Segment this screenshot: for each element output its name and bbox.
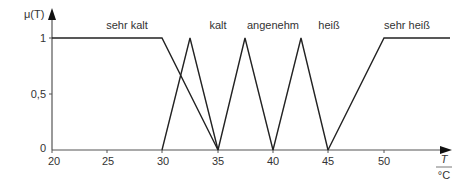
x-axis-label-denominator: °C <box>438 169 450 181</box>
label-kalt: kalt <box>209 19 226 31</box>
x-tick-label-45: 45 <box>322 155 334 167</box>
membership-function-chart: 1 0,5 0 μ(T) 20 25 30 35 40 45 50 T °C s… <box>0 0 474 187</box>
series-lines <box>52 38 450 150</box>
y-axis-arrow-icon <box>48 8 56 20</box>
y-tick-label-05: 0,5 <box>31 88 46 100</box>
label-sehr-heiss: sehr heiß <box>384 19 430 31</box>
y-tick-label-0: 0 <box>40 142 46 154</box>
x-tick-label-50: 50 <box>378 155 390 167</box>
x-tick-label-25: 25 <box>102 155 114 167</box>
series-sehr-heiss <box>328 38 450 150</box>
x-tick-label-35: 35 <box>212 155 224 167</box>
x-tick-label-30: 30 <box>157 155 169 167</box>
x-axis-label-numerator: T <box>441 153 449 165</box>
label-sehr-kalt: sehr kalt <box>106 19 148 31</box>
x-tick-label-20: 20 <box>48 155 60 167</box>
series-angenehm <box>218 38 273 150</box>
y-axis-label: μ(T) <box>24 8 44 20</box>
label-angenehm: angenehm <box>247 19 299 31</box>
y-tick-label-1: 1 <box>40 32 46 44</box>
series-heiss <box>273 38 328 150</box>
series-sehr-kalt <box>52 38 218 150</box>
label-heiss: heiß <box>318 19 340 31</box>
x-tick-label-40: 40 <box>267 155 279 167</box>
